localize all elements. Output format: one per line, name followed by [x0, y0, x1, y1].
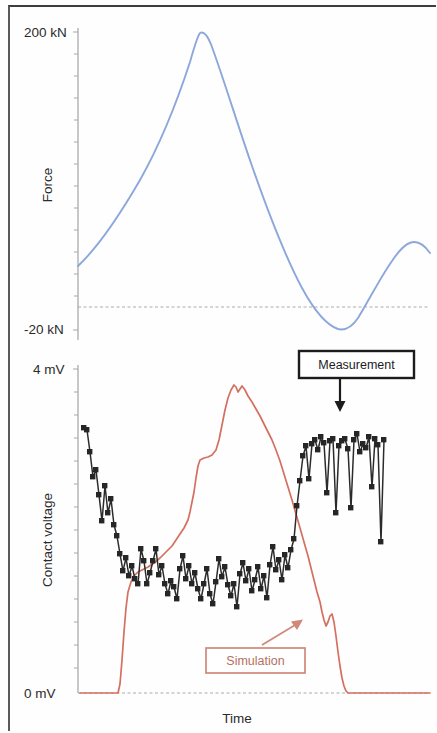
simulation-callout-label: Simulation: [226, 654, 284, 668]
force-curve: [78, 33, 430, 330]
measurement-curve: [84, 428, 384, 607]
force-y-ticks: [73, 32, 78, 330]
voltage-y-bottom-label: 0 mV: [24, 686, 56, 701]
measurement-callout-label: Measurement: [318, 358, 395, 372]
voltage-y-axis-title: Contact voltage: [40, 493, 55, 587]
voltage-x-axis-title: Time: [222, 711, 252, 726]
simulation-curve: [80, 385, 430, 693]
down-arrow-icon: [335, 379, 346, 412]
figure-page: 200 kN -20 kN Force: [0, 0, 437, 733]
simulation-callout: Simulation: [206, 620, 305, 674]
voltage-y-top-label: 4 mV: [33, 362, 65, 377]
measurement-callout: Measurement: [299, 351, 414, 412]
voltage-y-ticks: [73, 369, 78, 668]
figure-canvas: 200 kN -20 kN Force: [0, 0, 437, 733]
measurement-markers: [81, 425, 386, 609]
force-y-bottom-label: -20 kN: [24, 322, 64, 337]
force-chart: 200 kN -20 kN Force: [24, 25, 430, 340]
force-y-axis-title: Force: [40, 168, 55, 203]
up-right-arrow-icon: [262, 620, 303, 646]
force-y-top-label: 200 kN: [24, 25, 67, 40]
